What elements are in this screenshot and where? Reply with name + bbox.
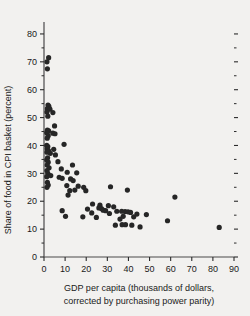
data-point: [65, 193, 70, 198]
data-point: [53, 152, 58, 157]
data-point: [89, 210, 94, 215]
data-point: [114, 209, 119, 214]
x-tick-label: 80: [208, 264, 218, 274]
data-point: [137, 224, 142, 229]
y-tick-label: 0: [32, 252, 37, 262]
data-point: [61, 142, 66, 147]
data-point: [44, 185, 49, 190]
y-axis: 01020304050607080: [27, 22, 44, 262]
x-tick-label: 10: [60, 264, 70, 274]
data-point: [90, 201, 95, 206]
data-point: [111, 204, 116, 209]
data-point: [45, 136, 50, 141]
x-axis-title-line2: corrected by purchasing power parity): [64, 296, 215, 306]
data-point: [65, 170, 70, 175]
data-point: [64, 183, 69, 188]
x-tick-label: 90: [229, 264, 239, 274]
data-point: [74, 170, 79, 175]
y-tick-label: 50: [27, 113, 37, 123]
x-tick-label: 40: [123, 264, 133, 274]
data-point: [44, 174, 49, 179]
data-point: [60, 176, 65, 181]
data-point: [63, 214, 68, 219]
data-point: [45, 66, 50, 71]
chart-canvas: 01020304050607080 0102030405060708090 Sh…: [0, 0, 250, 316]
data-point: [55, 159, 60, 164]
y-tick-label: 20: [27, 196, 37, 206]
x-tick-label: 60: [166, 264, 176, 274]
data-point: [108, 184, 113, 189]
data-point: [80, 214, 85, 219]
y-tick-label: 30: [27, 169, 37, 179]
data-point: [67, 188, 72, 193]
data-point: [72, 187, 77, 192]
y-tick-label: 70: [27, 57, 37, 67]
y-axis-title: Share of food in CPI basket (percent): [3, 86, 13, 235]
x-tick-label: 50: [145, 264, 155, 274]
data-point: [125, 187, 130, 192]
data-point: [144, 212, 149, 217]
x-tick-label: 70: [187, 264, 197, 274]
data-point: [52, 131, 57, 136]
x-axis-title-line1: GDP per capita (thousands of dollars,: [64, 283, 214, 293]
x-axis: 0102030405060708090: [41, 257, 239, 274]
data-point: [123, 222, 128, 227]
data-points: [44, 55, 222, 230]
data-point: [48, 151, 53, 156]
data-point: [50, 110, 55, 115]
data-point: [70, 162, 75, 167]
data-point: [172, 194, 177, 199]
data-point: [45, 114, 50, 119]
x-tick-label: 20: [81, 264, 91, 274]
data-point: [76, 184, 81, 189]
y-tick-label: 60: [27, 85, 37, 95]
data-point: [129, 223, 134, 228]
y-tick-label: 80: [27, 29, 37, 39]
data-point: [106, 203, 111, 208]
scatter-chart: 01020304050607080 0102030405060708090 Sh…: [0, 0, 250, 316]
data-point: [83, 188, 88, 193]
data-point: [107, 211, 112, 216]
data-point: [51, 147, 56, 152]
data-point: [165, 218, 170, 223]
y-tick-label: 40: [27, 141, 37, 151]
data-point: [71, 178, 76, 183]
data-point: [94, 215, 99, 220]
data-point: [85, 206, 90, 211]
data-point: [131, 214, 136, 219]
x-tick-label: 30: [102, 264, 112, 274]
data-point: [128, 210, 133, 215]
data-point: [113, 223, 118, 228]
data-point: [44, 59, 49, 64]
data-point: [60, 208, 65, 213]
y-tick-label: 10: [27, 224, 37, 234]
right-axis: [234, 34, 238, 257]
data-point: [52, 123, 57, 128]
data-point: [117, 216, 122, 221]
data-point: [59, 166, 64, 171]
data-point: [217, 225, 222, 230]
x-tick-label: 0: [41, 264, 46, 274]
